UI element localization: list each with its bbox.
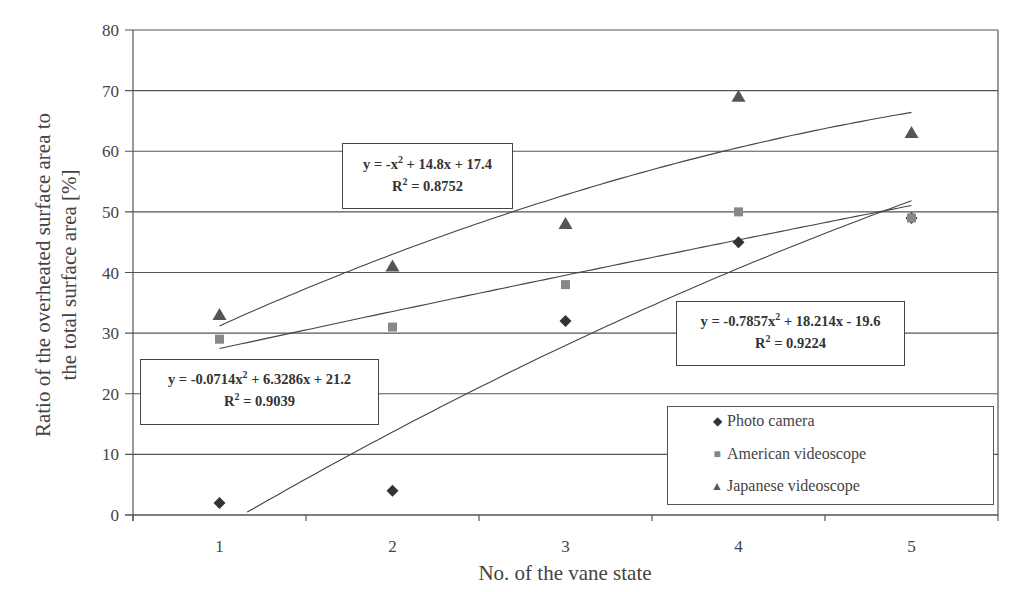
square-icon: ■ — [710, 447, 724, 462]
legend-label: American videoscope — [727, 445, 866, 463]
y-tick-label: 10 — [102, 445, 119, 464]
triangle-icon: ▲ — [710, 479, 724, 494]
legend-item-photo-camera: ◆ Photo camera — [710, 412, 815, 430]
y-tick-label: 50 — [102, 203, 119, 222]
y-tick-label: 60 — [102, 142, 119, 161]
data-point-photo-camera — [214, 497, 226, 509]
x-tick-label: 2 — [388, 537, 397, 556]
data-point-japanese-videoscope — [732, 90, 746, 102]
y-tick-label: 70 — [102, 82, 119, 101]
data-point-japanese-videoscope — [213, 308, 227, 320]
data-point-american-videoscope — [561, 280, 570, 289]
data-point-american-videoscope — [388, 323, 397, 332]
equation-american: y = -0.0714x2 + 6.3286x + 21.2 — [141, 368, 378, 390]
r-squared-japanese: R2 = 0.8752 — [343, 175, 512, 197]
legend-label: Photo camera — [727, 412, 815, 430]
legend-item-japanese-videoscope: ▲ Japanese videoscope — [710, 477, 860, 495]
y-axis-title-line-2: the total surface area [%] — [57, 169, 81, 380]
data-point-japanese-videoscope — [386, 259, 400, 271]
x-axis-ticks: 12345 — [215, 537, 916, 556]
data-point-american-videoscope — [215, 335, 224, 344]
equation-japanese: y = -x2 + 14.8x + 17.4 — [343, 153, 512, 175]
data-point-japanese-videoscope — [559, 217, 573, 229]
x-tick-label: 3 — [561, 537, 570, 556]
y-tick-label: 40 — [102, 264, 119, 283]
x-tick-label: 4 — [734, 537, 743, 556]
y-tick-label: 30 — [102, 324, 119, 343]
y-tick-label: 0 — [111, 506, 120, 525]
x-axis-title: No. of the vane state — [478, 561, 651, 585]
legend-item-american-videoscope: ■ American videoscope — [710, 445, 866, 463]
y-axis-title: Ratio of the overheated surface area to … — [31, 113, 81, 437]
data-point-photo-camera — [733, 236, 745, 248]
y-axis-title-line-1: Ratio of the overheated surface area to — [31, 113, 55, 437]
equation-photo: y = -0.7857x2 + 18.214x - 19.6 — [677, 310, 904, 332]
y-tick-label: 20 — [102, 385, 119, 404]
equation-box-american: y = -0.0714x2 + 6.3286x + 21.2 R2 = 0.90… — [140, 359, 379, 425]
data-point-american-videoscope — [734, 207, 743, 216]
x-tick-label: 5 — [907, 537, 916, 556]
diamond-icon: ◆ — [710, 414, 724, 429]
equation-box-japanese: y = -x2 + 14.8x + 17.4 R2 = 0.8752 — [342, 143, 513, 209]
data-point-photo-camera — [560, 315, 572, 327]
data-point-photo-camera — [387, 485, 399, 497]
r-squared-photo: R2 = 0.9224 — [677, 332, 904, 354]
y-tick-label: 80 — [102, 21, 119, 40]
equation-box-photo: y = -0.7857x2 + 18.214x - 19.6 R2 = 0.92… — [676, 301, 905, 366]
x-tick-label: 1 — [215, 537, 224, 556]
data-point-japanese-videoscope — [905, 126, 919, 138]
data-point-american-videoscope — [907, 213, 916, 222]
legend: ◆ Photo camera ■ American videoscope ▲ J… — [667, 406, 994, 505]
y-axis-ticks: 01020304050607080 — [102, 21, 119, 525]
r-squared-american: R2 = 0.9039 — [141, 390, 378, 412]
legend-label: Japanese videoscope — [727, 477, 860, 495]
